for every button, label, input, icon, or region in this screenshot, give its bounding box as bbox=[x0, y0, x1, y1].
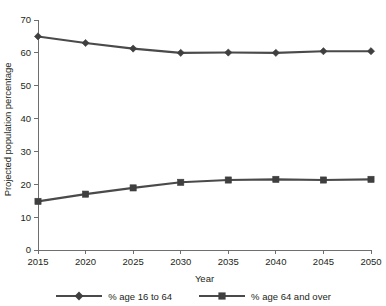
legend-item-age-16-to-64: % age 16 to 64 bbox=[55, 290, 172, 302]
data-point-marker bbox=[367, 48, 374, 55]
y-tick-label: 40 bbox=[20, 113, 31, 124]
legend-swatch-diamond-icon bbox=[55, 290, 103, 302]
y-tick-label: 10 bbox=[20, 212, 31, 223]
data-point-marker bbox=[178, 179, 184, 185]
x-tick-label: 2040 bbox=[265, 256, 286, 267]
data-point-marker bbox=[35, 198, 41, 204]
y-tick-label: 50 bbox=[20, 80, 31, 91]
data-point-marker bbox=[130, 185, 136, 191]
y-tick-label: 0 bbox=[26, 244, 31, 255]
x-tick-label: 2050 bbox=[360, 256, 381, 267]
x-axis-ticks: 20152020202520302035204020452050 bbox=[27, 250, 381, 267]
legend-label-age-16-to-64: % age 16 to 64 bbox=[108, 291, 172, 302]
data-point-marker bbox=[320, 48, 327, 55]
y-tick-label: 60 bbox=[20, 47, 31, 58]
legend-label-age-64-and-over: % age 64 and over bbox=[251, 291, 331, 302]
data-point-marker bbox=[368, 176, 374, 182]
chart-legend: % age 16 to 64 % age 64 and over bbox=[0, 286, 386, 306]
x-tick-label: 2020 bbox=[75, 256, 96, 267]
data-point-marker bbox=[225, 49, 232, 56]
y-tick-label: 70 bbox=[20, 14, 31, 25]
y-tick-label: 20 bbox=[20, 179, 31, 190]
y-tick-label: 30 bbox=[20, 146, 31, 157]
plot-area: 010203040506070 201520202025203020352040… bbox=[0, 0, 386, 286]
data-point-marker bbox=[177, 49, 184, 56]
x-tick-label: 2035 bbox=[218, 256, 239, 267]
line-chart: Projected population percentage 01020304… bbox=[0, 0, 386, 306]
data-point-marker bbox=[82, 39, 89, 46]
data-series-layer bbox=[34, 33, 374, 205]
data-point-marker bbox=[34, 33, 41, 40]
series-1 bbox=[34, 33, 374, 57]
data-point-marker bbox=[272, 49, 279, 56]
data-point-marker bbox=[320, 177, 326, 183]
x-axis-title: Year bbox=[195, 273, 214, 284]
x-tick-label: 2015 bbox=[27, 256, 48, 267]
legend-swatch-square-icon bbox=[198, 290, 246, 302]
data-point-marker bbox=[273, 176, 279, 182]
x-tick-label: 2030 bbox=[170, 256, 191, 267]
y-axis-ticks: 010203040506070 bbox=[20, 14, 38, 255]
legend-item-age-64-and-over: % age 64 and over bbox=[198, 290, 331, 302]
x-tick-label: 2045 bbox=[313, 256, 334, 267]
data-point-marker bbox=[130, 45, 137, 52]
series-2 bbox=[35, 176, 374, 204]
data-point-marker bbox=[82, 191, 88, 197]
data-point-marker bbox=[225, 177, 231, 183]
x-tick-label: 2025 bbox=[123, 256, 144, 267]
